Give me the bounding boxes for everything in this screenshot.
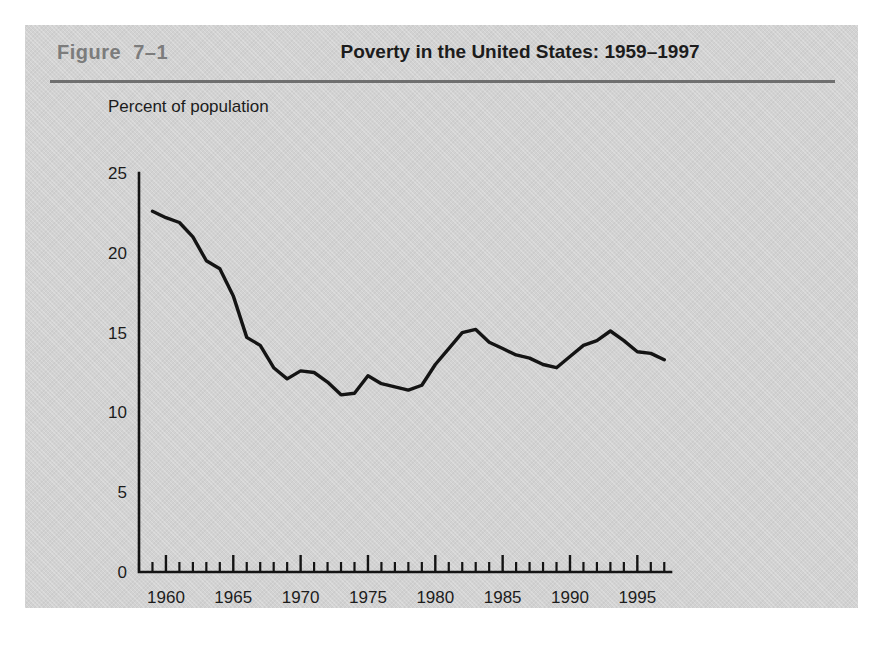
chart-axes [139,173,671,572]
y-tick-label: 15 [108,324,127,343]
x-tick-label: 1960 [147,588,185,607]
x-axis-ticks: 19601965197019751980198519901995 [139,555,664,607]
x-tick-label: 1980 [416,588,454,607]
x-tick-label: 1975 [349,588,387,607]
x-tick-label: 1970 [282,588,320,607]
figure-header: Figure 7–1 Poverty in the United States:… [25,25,858,83]
x-tick-label: 1965 [214,588,252,607]
x-tick-label: 1990 [551,588,589,607]
x-tick-label: 1985 [484,588,522,607]
y-tick-label: 25 [108,164,127,183]
y-tick-label: 20 [108,244,127,263]
x-tick-label: 1995 [618,588,656,607]
y-tick-label: 10 [108,403,127,422]
figure-panel: Figure 7–1 Poverty in the United States:… [25,25,858,608]
plot-area: Percent of population 0510152025 1960196… [25,83,858,608]
chart-series [152,211,664,395]
y-tick-label: 5 [118,483,127,502]
series-line-poverty-rate [152,211,664,395]
y-axis-ticks: 0510152025 [108,164,127,582]
figure-number-label: Figure 7–1 [57,41,168,64]
poverty-line-chart: 0510152025 19601965197019751980198519901… [25,83,858,608]
figure-title: Poverty in the United States: 1959–1997 [240,41,800,63]
y-tick-label: 0 [118,563,127,582]
